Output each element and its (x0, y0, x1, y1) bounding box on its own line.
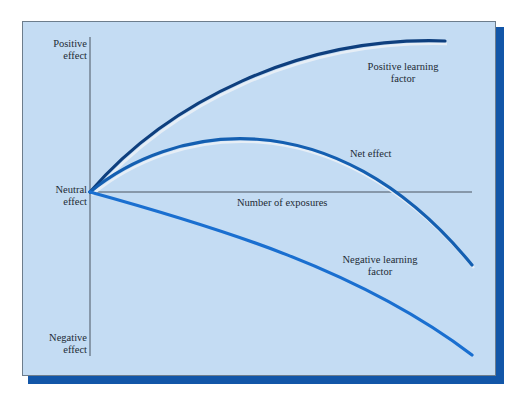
y-label-neutral-line1: Neutral (56, 184, 88, 196)
negative-learning-label-line2: factor (330, 266, 430, 278)
y-label-negative-line1: Negative (49, 332, 87, 344)
positive-learning-label-line2: factor (358, 73, 448, 85)
net-effect-label: Net effect (350, 148, 392, 160)
y-label-positive-line1: Positive (53, 38, 87, 50)
negative-learning-label-line1: Negative learning (330, 254, 430, 266)
positive-learning-label-line1: Positive learning (358, 61, 448, 73)
y-label-negative: Negative effect (49, 332, 87, 356)
y-label-neutral-line2: effect (56, 196, 88, 208)
y-label-neutral: Neutral effect (56, 184, 88, 208)
positive-learning-label: Positive learning factor (358, 61, 448, 85)
y-label-positive: Positive effect (53, 38, 87, 62)
x-axis-label: Number of exposures (237, 197, 327, 209)
y-label-positive-line2: effect (53, 50, 87, 62)
y-label-negative-line2: effect (49, 344, 87, 356)
negative-learning-label: Negative learning factor (330, 254, 430, 278)
